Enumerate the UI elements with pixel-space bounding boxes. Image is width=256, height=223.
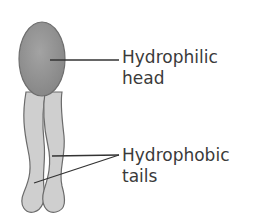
tail-leader-line-lower	[34, 155, 119, 183]
tails-label: Hydrophobic tails	[122, 145, 229, 187]
hydrophilic-head-shape	[19, 22, 65, 96]
head-label-line2: head	[122, 68, 218, 89]
tails-label-line1: Hydrophobic	[122, 145, 229, 166]
tails-label-line2: tails	[122, 166, 229, 187]
tail-left	[22, 92, 46, 212]
tail-right	[43, 92, 65, 212]
head-label-line1: Hydrophilic	[122, 47, 218, 68]
head-label: Hydrophilic head	[122, 47, 218, 89]
phospholipid-diagram	[0, 0, 256, 223]
